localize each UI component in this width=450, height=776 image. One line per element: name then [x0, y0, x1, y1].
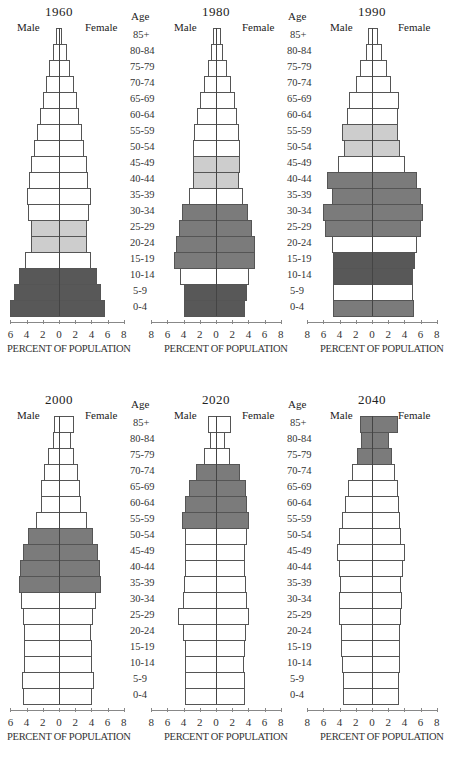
female-bar	[216, 624, 246, 641]
female-bar	[372, 92, 399, 109]
male-bar	[339, 608, 373, 625]
female-bar	[216, 300, 245, 317]
female-bar	[216, 140, 240, 157]
male-label: Male	[174, 21, 197, 33]
male-bar	[360, 416, 373, 433]
male-bar	[184, 284, 217, 301]
age-label: 40-44	[287, 561, 312, 572]
x-tick-label: 8	[145, 328, 157, 340]
age-label: 75-79	[287, 449, 312, 460]
age-label: 0-4	[133, 689, 147, 700]
x-tick	[216, 708, 217, 712]
age-label: 15-19	[287, 253, 312, 264]
x-axis-label: PERCENT OF POPULATION	[164, 343, 288, 354]
age-label: 15-19	[130, 253, 155, 264]
x-tick	[43, 708, 44, 712]
age-label: 50-54	[287, 529, 312, 540]
male-bar	[340, 576, 373, 593]
female-bar	[59, 92, 77, 109]
x-tick-label: 8	[301, 328, 313, 340]
age-label: 85+	[133, 29, 149, 40]
chart-title: 2000	[19, 392, 99, 408]
female-bar	[59, 236, 87, 253]
male-bar	[24, 656, 60, 673]
female-bar	[372, 496, 399, 513]
x-tick	[75, 708, 76, 712]
x-axis-label: PERCENT OF POPULATION	[164, 731, 288, 742]
female-bar	[372, 624, 400, 641]
age-label: 10-14	[287, 657, 312, 668]
male-bar	[22, 672, 60, 689]
x-tick-label: 6	[415, 716, 427, 728]
female-bar	[59, 688, 92, 705]
male-bar	[23, 608, 60, 625]
female-bar	[372, 300, 414, 317]
female-bar	[372, 60, 387, 77]
female-bar	[216, 416, 231, 433]
age-label: 65-69	[287, 481, 312, 492]
male-bar	[19, 268, 61, 285]
age-label: 30-34	[130, 205, 155, 216]
age-label: 70-74	[130, 77, 155, 88]
age-label: 35-39	[130, 189, 155, 200]
female-bar	[59, 464, 78, 481]
female-bar	[372, 416, 398, 433]
female-bar	[59, 432, 71, 449]
male-bar	[185, 640, 217, 657]
x-tick	[388, 320, 389, 324]
age-header: Age	[288, 398, 306, 410]
female-bar	[59, 656, 92, 673]
male-bar	[327, 172, 373, 189]
x-axis-label: PERCENT OF POPULATION	[320, 731, 444, 742]
x-tick	[372, 320, 373, 324]
male-bar	[325, 220, 373, 237]
x-tick	[43, 320, 44, 324]
female-bar	[372, 480, 398, 497]
male-bar	[193, 140, 217, 157]
x-tick-label: 8	[118, 328, 130, 340]
x-tick-label: 6	[415, 328, 427, 340]
female-bar	[216, 432, 225, 449]
male-bar	[36, 512, 60, 529]
x-tick	[184, 320, 185, 324]
x-tick	[232, 708, 233, 712]
x-tick	[404, 708, 405, 712]
female-bar	[372, 252, 415, 269]
x-tick-label: 2	[382, 716, 394, 728]
zero-line	[59, 28, 60, 316]
male-bar	[176, 236, 218, 253]
male-bar	[196, 464, 217, 481]
x-tick-label: 6	[317, 328, 329, 340]
male-bar	[185, 544, 217, 561]
female-bar	[372, 172, 417, 189]
age-label: 80-84	[130, 45, 155, 56]
age-label: 65-69	[130, 93, 155, 104]
male-bar	[46, 76, 60, 93]
age-label: 15-19	[287, 641, 312, 652]
male-bar	[37, 124, 60, 141]
male-bar	[180, 268, 217, 285]
age-label: 55-59	[287, 125, 312, 136]
x-tick	[27, 708, 28, 712]
female-bar	[59, 220, 87, 237]
x-tick	[91, 320, 92, 324]
female-bar	[59, 44, 67, 61]
female-bar	[216, 592, 247, 609]
age-label: 0-4	[290, 301, 304, 312]
female-bar	[59, 640, 92, 657]
female-bar	[216, 108, 237, 125]
age-label: 30-34	[287, 593, 312, 604]
age-label: 50-54	[287, 141, 312, 152]
male-bar	[323, 204, 373, 221]
x-tick-label: 2	[350, 716, 362, 728]
x-tick-label: 2	[69, 716, 81, 728]
age-label: 45-49	[287, 545, 312, 556]
male-bar	[345, 496, 373, 513]
female-bar	[372, 140, 400, 157]
female-bar	[59, 560, 100, 577]
female-bar	[372, 124, 398, 141]
male-bar	[344, 140, 373, 157]
female-bar	[372, 204, 423, 221]
zero-line	[216, 416, 217, 704]
age-label: 0-4	[133, 301, 147, 312]
